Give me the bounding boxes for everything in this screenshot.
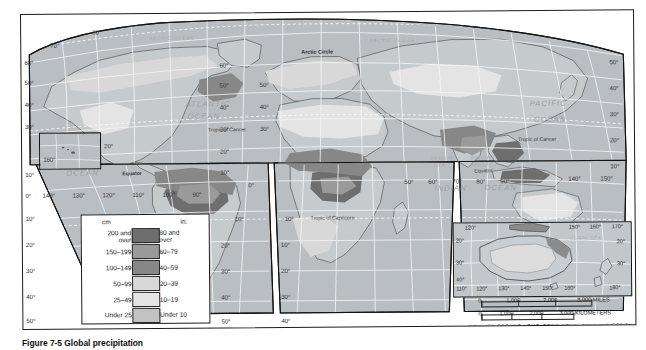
projection-note: MODIFIED GOODE'S HOMOLOSINE EQUAL-AREA P…: [455, 322, 636, 329]
legend-in-under-10: Under 10: [160, 307, 210, 323]
legend-cm-100-149: 100–149: [82, 260, 132, 276]
oceania-inset-box[interactable]: CORAL SEA 120° 150° 160° 170° 110° 120° …: [453, 221, 633, 297]
precipitation-legend[interactable]: cm in. 200 and over 80 and over: [81, 214, 211, 325]
figure-page: 160°: [0, 0, 646, 350]
legend-swatch-cell-4: [132, 291, 160, 307]
scale-miles-0: 0: [478, 297, 481, 303]
legend-swatch-cell-1: [131, 244, 159, 260]
legend-row-150-199[interactable]: 150–199 60–79: [82, 243, 209, 260]
legend-header-row: cm in.: [82, 215, 209, 229]
legend-in-80-over-l2: over: [159, 236, 172, 243]
legend-in-40-59: 40–59: [159, 259, 209, 275]
legend-swatch-cell-3: [132, 275, 160, 291]
legend-swatch-50-99: [132, 276, 160, 291]
legend-row-100-149[interactable]: 100–149 40–59: [82, 259, 209, 276]
legend-swatch-cell-5: [132, 307, 160, 323]
figure-caption: Figure 7-5 Global precipitation: [22, 338, 143, 350]
legend-row-25-49[interactable]: 25–49 10–19: [82, 291, 209, 308]
scale-miles-2: 2,000: [543, 296, 557, 302]
legend-in-20-39: 20–39: [160, 275, 210, 291]
legend-header-cm: cm: [82, 215, 132, 228]
scale-row-kilometers: 0 1,000 2,000 3,000 KILOMETERS: [463, 309, 633, 323]
legend-header-in: in.: [159, 215, 209, 228]
legend-row-50-99[interactable]: 50–99 20–39: [82, 275, 209, 292]
legend-swatch-200-over: [131, 228, 159, 243]
scale-km-0: 0: [478, 310, 481, 316]
hawaii-inset-box[interactable]: 160°: [39, 132, 101, 169]
legend-swatch-cell-0: [131, 228, 159, 244]
legend-cm-200-over-l2: over: [118, 236, 131, 243]
legend-in-60-79: 60–79: [159, 243, 209, 259]
legend-cm-25-49: 25–49: [82, 291, 132, 307]
scale-line-miles: [481, 301, 592, 307]
legend-in-10-19: 10–19: [160, 291, 210, 307]
legend-cm-200-over-l1: 200 and: [107, 229, 131, 236]
legend-swatch-cell-2: [131, 260, 159, 276]
legend-cm-under-25: Under 25: [82, 307, 132, 323]
legend-cm-50-99: 50–99: [82, 276, 132, 292]
scale-bars: 0 1,000 2,000 3,000 MILES 0 1,000 2,000 …: [463, 296, 633, 323]
legend-swatch-100-149: [131, 260, 159, 275]
legend-header-swatch-spacer: [131, 215, 159, 228]
legend-cm-200-over: 200 and over: [82, 228, 132, 244]
scale-km-1: 1,000: [499, 310, 513, 316]
legend-swatch-25-49: [132, 292, 160, 307]
scale-miles-3: 3,000 MILES: [577, 296, 609, 302]
legend-swatch-150-199: [131, 244, 159, 259]
legend-row-200-over[interactable]: 200 and over 80 and over: [82, 228, 209, 245]
scale-km-3: 3,000 KILOMETERS: [559, 309, 611, 315]
scale-km-2: 2,000: [529, 309, 543, 315]
legend-in-80-over-l1: 80 and: [159, 228, 179, 235]
legend-in-80-over: 80 and over: [159, 228, 209, 244]
map-figure-frame: 160°: [20, 9, 636, 330]
scale-miles-1: 1,000: [506, 297, 520, 303]
legend-cm-150-199: 150–199: [82, 244, 132, 260]
legend-swatch-under-25: [132, 307, 160, 322]
legend-row-under-25[interactable]: Under 25 Under 10: [82, 307, 209, 324]
